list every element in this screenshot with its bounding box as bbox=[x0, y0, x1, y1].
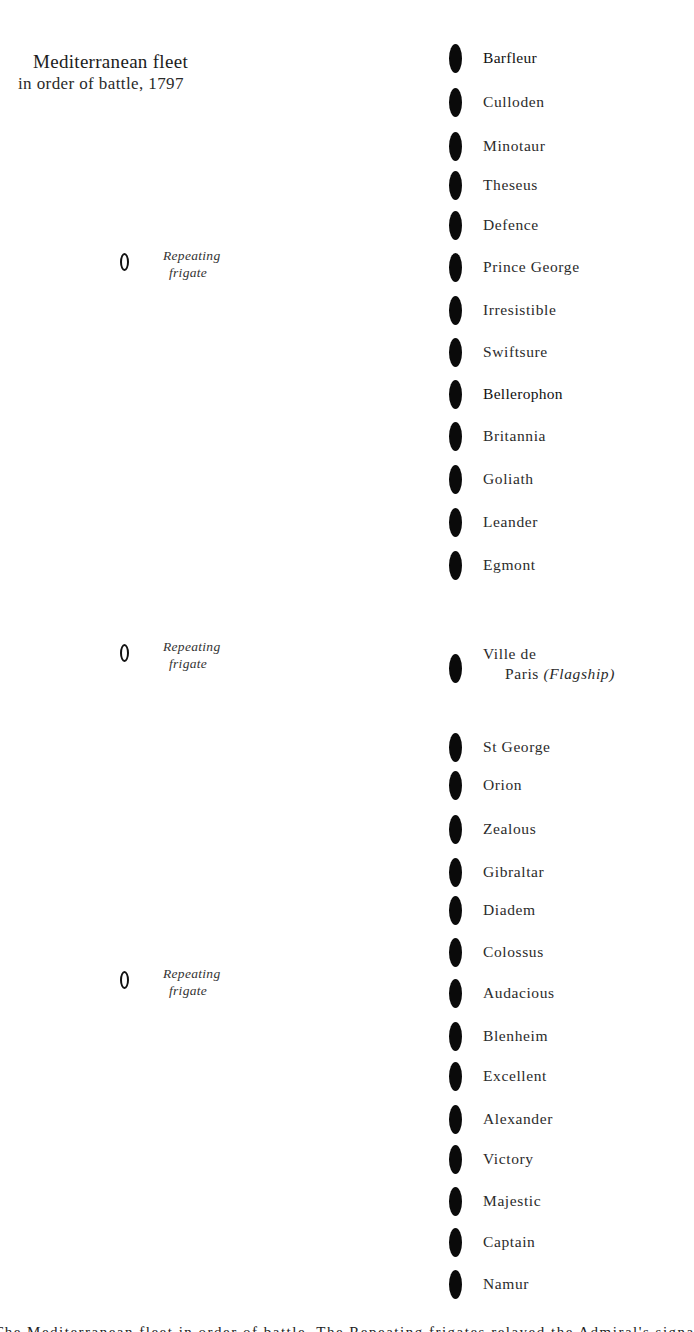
frigate-label-line2: frigate bbox=[163, 264, 220, 281]
ship-entry: Prince George bbox=[449, 253, 679, 277]
ship-name: Goliath bbox=[483, 470, 534, 488]
ship-entry: Culloden bbox=[449, 88, 679, 112]
ship-name: Irresistible bbox=[483, 301, 556, 319]
filled-ellipse-icon bbox=[449, 551, 462, 580]
frigate-label: Repeating frigate bbox=[163, 638, 220, 672]
ship-name: Theseus bbox=[483, 176, 538, 194]
ship-entry: Bellerophon bbox=[449, 380, 679, 404]
ship-name: Audacious bbox=[483, 984, 555, 1002]
ship-name: Barfleur bbox=[483, 49, 537, 67]
frigate-label-line1: Repeating bbox=[163, 248, 220, 263]
ship-name: Excellent bbox=[483, 1067, 547, 1085]
filled-ellipse-icon bbox=[449, 1022, 462, 1051]
figure-caption: The Mediterranean fleet in order of batt… bbox=[0, 1322, 694, 1332]
ship-entry: Egmont bbox=[449, 551, 679, 575]
filled-ellipse-icon bbox=[449, 1270, 462, 1299]
filled-ellipse-icon bbox=[449, 815, 462, 844]
filled-ellipse-icon bbox=[449, 896, 462, 925]
ship-entry: Gibraltar bbox=[449, 858, 679, 882]
filled-ellipse-icon bbox=[449, 338, 462, 367]
ship-entry: Minotaur bbox=[449, 132, 679, 156]
ship-name: Namur bbox=[483, 1275, 529, 1293]
ship-entry: Britannia bbox=[449, 422, 679, 446]
ship-entry: Defence bbox=[449, 211, 679, 235]
ship-name: Victory bbox=[483, 1150, 534, 1168]
filled-ellipse-icon bbox=[449, 211, 462, 240]
ship-name: Swiftsure bbox=[483, 343, 548, 361]
filled-ellipse-icon bbox=[449, 1228, 462, 1257]
filled-ellipse-icon bbox=[449, 1145, 462, 1174]
ship-entry: Zealous bbox=[449, 815, 679, 839]
ship-name: Colossus bbox=[483, 943, 544, 961]
filled-ellipse-icon bbox=[449, 422, 462, 451]
filled-ellipse-icon bbox=[449, 771, 462, 800]
ship-name: Minotaur bbox=[483, 137, 546, 155]
frigate-label-line1: Repeating bbox=[163, 639, 220, 654]
frigate-label-line2: frigate bbox=[163, 982, 220, 999]
frigate-label-line2: frigate bbox=[163, 655, 220, 672]
frigate-marker: Repeating frigate bbox=[120, 638, 280, 678]
filled-ellipse-icon bbox=[449, 858, 462, 887]
ship-name: Egmont bbox=[483, 556, 536, 574]
ship-name: Prince George bbox=[483, 258, 580, 276]
ship-name: Defence bbox=[483, 216, 539, 234]
ship-entry: Barfleur bbox=[449, 44, 679, 68]
filled-ellipse-icon bbox=[449, 88, 462, 117]
ship-name: Orion bbox=[483, 776, 522, 794]
ship-name: Alexander bbox=[483, 1110, 553, 1128]
ship-name: Culloden bbox=[483, 93, 545, 111]
ship-entry: Orion bbox=[449, 771, 679, 795]
hollow-ellipse-icon bbox=[120, 253, 129, 271]
ship-entry: Colossus bbox=[449, 938, 679, 962]
filled-ellipse-icon bbox=[449, 380, 462, 409]
filled-ellipse-icon bbox=[449, 938, 462, 967]
ship-name-line1: Ville de bbox=[483, 645, 536, 662]
ship-entry: Diadem bbox=[449, 896, 679, 920]
hollow-ellipse-icon bbox=[120, 971, 129, 989]
frigate-marker: Repeating frigate bbox=[120, 247, 280, 287]
ship-name-line2-text: Paris bbox=[505, 665, 539, 682]
frigate-label-line1: Repeating bbox=[163, 966, 220, 981]
ship-name: Bellerophon bbox=[483, 385, 563, 403]
flagship-note: (Flagship) bbox=[543, 665, 614, 682]
filled-ellipse-icon bbox=[449, 296, 462, 325]
ship-entry: Namur bbox=[449, 1270, 679, 1294]
ship-name: Captain bbox=[483, 1233, 535, 1251]
ship-entry: Captain bbox=[449, 1228, 679, 1252]
ship-entry: St George bbox=[449, 733, 679, 757]
filled-ellipse-icon bbox=[449, 1105, 462, 1134]
frigate-marker: Repeating frigate bbox=[120, 965, 280, 1005]
ship-name: Britannia bbox=[483, 427, 546, 445]
ship-name: St George bbox=[483, 738, 551, 756]
ship-entry: Ville deParis (Flagship) bbox=[449, 644, 679, 668]
hollow-ellipse-icon bbox=[120, 644, 129, 662]
filled-ellipse-icon bbox=[449, 465, 462, 494]
ship-name: Zealous bbox=[483, 820, 536, 838]
filled-ellipse-icon bbox=[449, 979, 462, 1008]
ship-entry: Majestic bbox=[449, 1187, 679, 1211]
filled-ellipse-icon bbox=[449, 733, 462, 762]
ship-entry: Alexander bbox=[449, 1105, 679, 1129]
ship-entry: Audacious bbox=[449, 979, 679, 1003]
filled-ellipse-icon bbox=[449, 171, 462, 200]
diagram-subtitle: in order of battle, 1797 bbox=[18, 73, 184, 95]
filled-ellipse-icon bbox=[449, 1187, 462, 1216]
ship-entry: Theseus bbox=[449, 171, 679, 195]
ship-entry: Leander bbox=[449, 508, 679, 532]
filled-ellipse-icon bbox=[449, 1062, 462, 1091]
ship-name: Ville deParis (Flagship) bbox=[483, 644, 615, 684]
diagram-title: Mediterranean fleet bbox=[33, 50, 188, 74]
frigate-label: Repeating frigate bbox=[163, 247, 220, 281]
ship-name-line2: Paris (Flagship) bbox=[483, 664, 615, 684]
ship-entry: Excellent bbox=[449, 1062, 679, 1086]
ship-entry: Victory bbox=[449, 1145, 679, 1169]
frigate-label: Repeating frigate bbox=[163, 965, 220, 999]
filled-ellipse-icon bbox=[449, 44, 462, 73]
filled-ellipse-icon bbox=[449, 654, 462, 683]
ship-entry: Goliath bbox=[449, 465, 679, 489]
ship-name: Majestic bbox=[483, 1192, 541, 1210]
filled-ellipse-icon bbox=[449, 132, 462, 161]
ship-name: Leander bbox=[483, 513, 538, 531]
filled-ellipse-icon bbox=[449, 508, 462, 537]
ship-name: Gibraltar bbox=[483, 863, 544, 881]
